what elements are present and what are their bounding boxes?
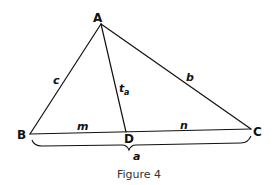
side-BC — [30, 129, 251, 134]
vertex-label-C: C — [253, 125, 262, 139]
cevian-AD — [101, 24, 126, 132]
side-label-a: a — [133, 150, 140, 163]
side-AB — [30, 24, 101, 134]
side-label-b: b — [186, 71, 194, 84]
side-label-t-subscript: a — [124, 88, 129, 97]
figure-caption: Figure 4 — [117, 168, 161, 181]
segment-label-m: m — [77, 120, 88, 133]
side-AC — [101, 24, 251, 129]
side-label-c: c — [53, 74, 60, 87]
triangle-cevian-diagram: A B C D c b t a m n a Figure 4 — [0, 0, 278, 185]
vertex-label-A: A — [93, 11, 103, 25]
brace-a — [32, 136, 251, 150]
vertex-label-D: D — [124, 132, 134, 146]
segment-label-n: n — [180, 119, 188, 132]
vertex-label-B: B — [17, 128, 26, 142]
